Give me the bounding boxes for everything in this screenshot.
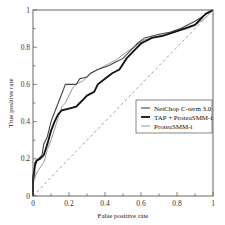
y-tick-label: 0.2 xyxy=(21,154,31,163)
y-tick-label: 1 xyxy=(26,6,30,15)
y-tick-label: 0.4 xyxy=(21,117,31,126)
roc-chart: 00.20.40.60.81 00.20.40.60.81 False posi… xyxy=(0,0,225,225)
y-tick-label: 0 xyxy=(26,192,30,201)
y-tick-label: 0.8 xyxy=(21,43,31,52)
x-tick-label: 0.2 xyxy=(64,199,74,208)
x-tick-label: 1 xyxy=(211,199,215,208)
legend-label-tap-proteasmm: TAP + ProteaSMM-i xyxy=(154,114,212,122)
legend-label-proteasmm: ProteaSMM-i xyxy=(154,123,193,131)
legend-label-netchop: NetChop C-term 3.0 xyxy=(154,105,212,113)
x-tick-label: 0 xyxy=(31,199,35,208)
x-tick-label: 0.6 xyxy=(136,199,146,208)
y-tick-label: 0.6 xyxy=(21,80,31,89)
x-tick-label: 0.8 xyxy=(172,199,182,208)
legend: NetChop C-term 3.0 TAP + ProteaSMM-i Pro… xyxy=(136,100,212,133)
y-axis-title: True positive rate xyxy=(7,78,15,127)
x-tick-label: 0.4 xyxy=(100,199,110,208)
x-axis-ticks: 00.20.40.60.81 xyxy=(31,192,215,208)
x-axis-title: False positive rate xyxy=(98,212,149,220)
